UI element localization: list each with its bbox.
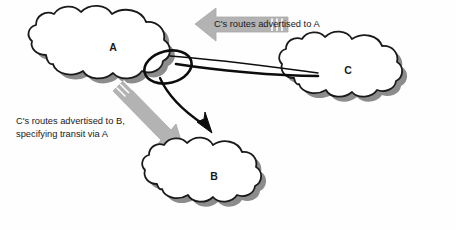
annotation-routes-to-a-line-1: C's routes advertised to A (214, 19, 320, 29)
cloud-a-label: A (109, 41, 117, 53)
cloud-b[interactable]: B (142, 138, 261, 202)
gray-arrow-to-b (113, 81, 183, 148)
annotation-routes-to-b-line-1: C's routes advertised to B, (16, 116, 125, 126)
network-diagram: A C B (0, 0, 456, 230)
annotation-routes-to-b-line-2: specifying transit via A (16, 129, 109, 139)
route-path-a-to-b-line (160, 78, 203, 124)
cloud-c-outline (279, 32, 402, 97)
cloud-c[interactable]: C (279, 32, 402, 97)
cloud-b-label: B (210, 170, 218, 182)
cloud-c-label: C (344, 64, 352, 76)
cloud-b-outline (142, 138, 261, 202)
cloud-a[interactable]: A (29, 6, 170, 79)
diagram-canvas: A C B (0, 0, 456, 230)
route-path-a-to-b-arrowhead (197, 112, 212, 133)
cloud-a-outline (29, 6, 170, 79)
gray-arrow-to-b-shape (113, 81, 183, 147)
